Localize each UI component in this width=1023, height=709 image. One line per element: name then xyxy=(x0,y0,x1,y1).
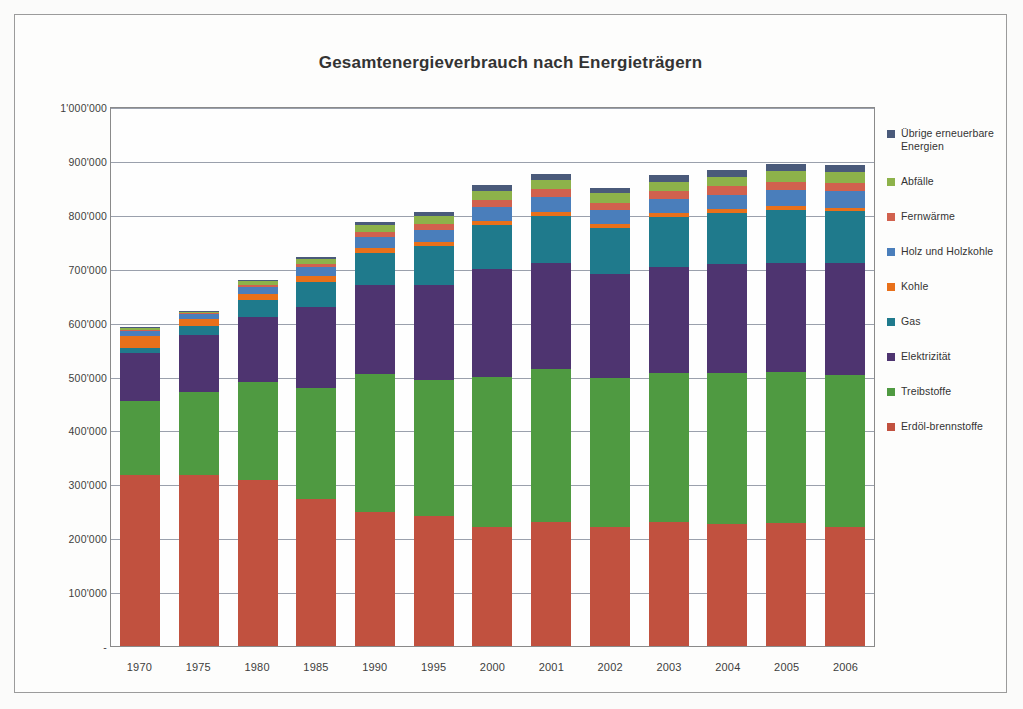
bar-segment[interactable] xyxy=(649,199,689,214)
bar-column[interactable] xyxy=(649,108,689,647)
bar-column[interactable] xyxy=(472,108,512,647)
bar-segment[interactable] xyxy=(531,263,571,369)
bar-segment[interactable] xyxy=(355,374,395,512)
bar-segment[interactable] xyxy=(120,353,160,401)
bar-segment[interactable] xyxy=(825,263,865,375)
bar-segment[interactable] xyxy=(472,200,512,207)
bar-segment[interactable] xyxy=(766,171,806,181)
bar-column[interactable] xyxy=(766,108,806,647)
legend-item[interactable]: Holz und Holzkohle xyxy=(887,245,1015,258)
bar-segment[interactable] xyxy=(707,195,747,210)
bar-segment[interactable] xyxy=(590,228,630,274)
bar-segment[interactable] xyxy=(707,186,747,194)
bar-column[interactable] xyxy=(179,108,219,647)
bar-segment[interactable] xyxy=(825,172,865,182)
bar-segment[interactable] xyxy=(531,189,571,197)
bar-column[interactable] xyxy=(120,108,160,647)
bar-segment[interactable] xyxy=(120,401,160,476)
bar-segment[interactable] xyxy=(707,524,747,647)
legend-item[interactable]: Elektrizität xyxy=(887,350,1015,363)
bar-segment[interactable] xyxy=(707,373,747,524)
bar-segment[interactable] xyxy=(825,527,865,647)
bar-segment[interactable] xyxy=(766,523,806,647)
bar-segment[interactable] xyxy=(179,326,219,335)
bar-segment[interactable] xyxy=(590,203,630,211)
bar-column[interactable] xyxy=(590,108,630,647)
bar-segment[interactable] xyxy=(707,213,747,264)
bar-segment[interactable] xyxy=(649,373,689,522)
bar-segment[interactable] xyxy=(296,282,336,307)
legend-item[interactable]: Kohle xyxy=(887,280,1015,293)
bar-column[interactable] xyxy=(238,108,278,647)
bar-segment[interactable] xyxy=(825,183,865,192)
bar-segment[interactable] xyxy=(707,264,747,373)
bar-segment[interactable] xyxy=(238,287,278,294)
bar-segment[interactable] xyxy=(590,527,630,647)
bar-segment[interactable] xyxy=(472,225,512,269)
bar-column[interactable] xyxy=(531,108,571,647)
bar-segment[interactable] xyxy=(414,285,454,380)
bar-segment[interactable] xyxy=(531,197,571,212)
bar-column[interactable] xyxy=(355,108,395,647)
bar-segment[interactable] xyxy=(355,253,395,285)
legend-item[interactable]: Abfälle xyxy=(887,175,1015,188)
bar-segment[interactable] xyxy=(414,246,454,285)
bar-segment[interactable] xyxy=(531,522,571,647)
bar-segment[interactable] xyxy=(472,207,512,221)
bar-segment[interactable] xyxy=(649,182,689,192)
bar-segment[interactable] xyxy=(296,499,336,648)
bar-segment[interactable] xyxy=(590,210,630,224)
bar-segment[interactable] xyxy=(707,177,747,187)
bar-segment[interactable] xyxy=(825,211,865,263)
bar-segment[interactable] xyxy=(472,269,512,377)
legend-item[interactable]: Gas xyxy=(887,315,1015,328)
legend-item[interactable]: Fernwärme xyxy=(887,210,1015,223)
legend-item[interactable]: Übrige erneuerbare Energien xyxy=(887,127,1015,153)
bar-segment[interactable] xyxy=(238,382,278,479)
bar-segment[interactable] xyxy=(472,377,512,527)
bar-segment[interactable] xyxy=(414,516,454,647)
bar-segment[interactable] xyxy=(472,191,512,200)
bar-segment[interactable] xyxy=(766,182,806,191)
bar-segment[interactable] xyxy=(238,480,278,647)
bar-segment[interactable] xyxy=(179,392,219,476)
bar-segment[interactable] xyxy=(649,522,689,647)
bar-segment[interactable] xyxy=(531,180,571,189)
bar-segment[interactable] xyxy=(120,475,160,647)
bar-segment[interactable] xyxy=(766,210,806,263)
bar-segment[interactable] xyxy=(590,274,630,377)
bar-segment[interactable] xyxy=(296,267,336,276)
bar-segment[interactable] xyxy=(414,216,454,224)
bar-segment[interactable] xyxy=(766,164,806,171)
bar-segment[interactable] xyxy=(179,319,219,326)
bar-segment[interactable] xyxy=(649,191,689,199)
bar-segment[interactable] xyxy=(179,335,219,392)
bar-segment[interactable] xyxy=(355,512,395,647)
bar-segment[interactable] xyxy=(179,475,219,647)
bar-segment[interactable] xyxy=(649,267,689,373)
bar-segment[interactable] xyxy=(590,193,630,202)
bar-segment[interactable] xyxy=(296,307,336,387)
bar-column[interactable] xyxy=(414,108,454,647)
bar-segment[interactable] xyxy=(825,375,865,527)
bar-segment[interactable] xyxy=(296,388,336,499)
bar-segment[interactable] xyxy=(238,317,278,383)
bar-column[interactable] xyxy=(296,108,336,647)
bar-segment[interactable] xyxy=(766,372,806,523)
bar-segment[interactable] xyxy=(414,230,454,242)
bar-segment[interactable] xyxy=(531,216,571,264)
bar-column[interactable] xyxy=(707,108,747,647)
bar-segment[interactable] xyxy=(766,190,806,206)
bar-segment[interactable] xyxy=(414,380,454,517)
bar-segment[interactable] xyxy=(355,285,395,374)
bar-segment[interactable] xyxy=(825,165,865,172)
legend-item[interactable]: Erdöl-brennstoffe xyxy=(887,420,1015,433)
bar-segment[interactable] xyxy=(825,191,865,207)
bar-segment[interactable] xyxy=(355,237,395,248)
bar-segment[interactable] xyxy=(649,217,689,267)
bar-segment[interactable] xyxy=(766,263,806,373)
legend-item[interactable]: Treibstoffe xyxy=(887,385,1015,398)
bar-segment[interactable] xyxy=(472,527,512,647)
bar-segment[interactable] xyxy=(531,369,571,522)
bar-column[interactable] xyxy=(825,108,865,647)
